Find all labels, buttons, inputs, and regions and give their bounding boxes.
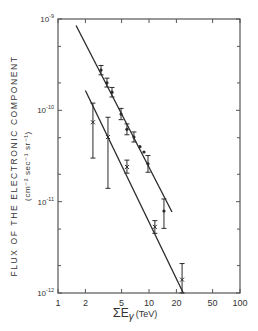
data-point-lower	[124, 160, 129, 173]
data-point-lower	[105, 117, 110, 188]
y-axis-label: FLUX OF THE ELECTRONIC COMPONENT (cm⁻² s…	[9, 55, 32, 276]
marker-dot	[119, 112, 122, 115]
marker-dot	[132, 135, 135, 138]
data-point-upper	[124, 124, 129, 135]
y-label-units: (cm⁻² sec⁻¹ sr⁻¹)	[23, 131, 32, 201]
y-tick-label: 10-11	[38, 196, 54, 207]
data-point-upper	[142, 150, 145, 153]
marker-dot	[138, 145, 141, 148]
x-label-sigma: Σ	[113, 305, 121, 320]
y-label-title: FLUX OF THE ELECTRONIC COMPONENT	[9, 55, 19, 276]
y-tick-label: 10-10	[37, 104, 54, 115]
fit-line-upper	[76, 25, 172, 212]
x-label-e: E	[121, 306, 129, 320]
data-point-upper	[161, 199, 166, 228]
x-tick-label: 100	[232, 298, 247, 308]
marker-dot	[99, 68, 102, 71]
y-tick-label: 10-12	[37, 287, 54, 298]
y-axis-ticks: 10-910-1010-1110-12	[37, 13, 240, 298]
marker-dot	[146, 162, 149, 165]
x-label-gamma: γ	[129, 311, 135, 322]
data-point-lower	[180, 264, 185, 293]
marker-dot	[125, 128, 128, 131]
y-tick-label: 10-9	[40, 13, 54, 24]
x-tick-label: 50	[208, 298, 218, 308]
marker-dot	[105, 81, 108, 84]
marker-dot	[142, 150, 145, 153]
fit-line-lower	[85, 90, 183, 293]
marker-dot	[110, 91, 113, 94]
x-label-unit: (TeV)	[136, 309, 158, 319]
x-tick-label: 1	[55, 298, 60, 308]
x-tick-label: 20	[171, 298, 181, 308]
marker-dot	[162, 209, 165, 212]
fit-lines	[76, 25, 183, 293]
x-tick-label: 10	[144, 298, 154, 308]
x-axis-ticks: 125102050100	[55, 19, 247, 308]
flux-chart: 125102050100 10-910-1010-1110-12 ΣEγ(TeV…	[0, 0, 258, 331]
x-tick-label: 2	[83, 298, 88, 308]
data-point-upper	[138, 145, 141, 148]
data-points	[90, 65, 184, 293]
data-point-lower	[90, 103, 95, 158]
